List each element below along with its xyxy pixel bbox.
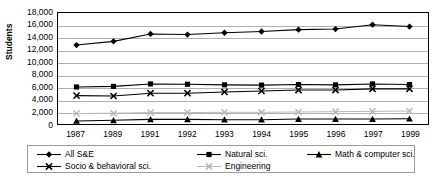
x-tick-label: 1995 bbox=[289, 129, 308, 139]
data-point bbox=[111, 84, 116, 89]
data-point bbox=[370, 81, 375, 86]
y-tick-label: 6,000 bbox=[32, 83, 53, 92]
legend-marker-square-icon bbox=[196, 149, 222, 160]
chart-legend: All S&ENatural sci.Math & computer sci.S… bbox=[27, 145, 415, 173]
legend-marker-cross-icon bbox=[196, 161, 222, 172]
legend-item[interactable]: Engineering bbox=[196, 160, 270, 172]
data-point bbox=[258, 28, 264, 34]
x-tick-label: 1992 bbox=[178, 129, 197, 139]
series-layer bbox=[58, 13, 428, 124]
series-math-computer-sci bbox=[73, 115, 413, 123]
y-tick-label: 0 bbox=[48, 121, 53, 130]
x-tick-label: 1996 bbox=[327, 129, 346, 139]
data-point bbox=[296, 82, 301, 87]
series-line bbox=[77, 111, 410, 113]
data-point bbox=[295, 27, 301, 33]
series-natural-sci bbox=[74, 81, 412, 89]
x-tick-label: 1991 bbox=[141, 129, 160, 139]
y-tick-label: 16,000 bbox=[27, 20, 53, 29]
data-point bbox=[185, 82, 190, 87]
y-tick-label: 14,000 bbox=[27, 33, 53, 42]
plot-area bbox=[57, 12, 429, 125]
data-point bbox=[221, 30, 227, 36]
data-point bbox=[110, 38, 116, 44]
data-point bbox=[148, 81, 153, 86]
data-point bbox=[259, 83, 264, 88]
y-axis-tick-labels: 18,00016,00014,00012,00010,0008,0006,000… bbox=[14, 8, 55, 128]
y-tick-label: 4,000 bbox=[32, 95, 53, 104]
x-tick-label: 1987 bbox=[66, 129, 85, 139]
y-tick-label: 12,000 bbox=[27, 45, 53, 54]
x-axis-tick-labels: 1987198919911992199319941995199619971999 bbox=[57, 129, 429, 142]
data-point bbox=[74, 84, 79, 89]
x-tick-label: 1994 bbox=[252, 129, 271, 139]
legend-label: Socio & behavioral sci. bbox=[65, 161, 151, 172]
y-tick-label: 2,000 bbox=[32, 108, 53, 117]
legend-label: All S&E bbox=[65, 149, 94, 160]
legend-label: Engineering bbox=[225, 161, 270, 172]
series-line bbox=[77, 84, 410, 87]
data-point bbox=[147, 31, 153, 37]
x-tick-label: 1999 bbox=[401, 129, 420, 139]
data-point bbox=[222, 82, 227, 87]
series-engineering bbox=[73, 108, 412, 117]
x-tick-label: 1989 bbox=[103, 129, 122, 139]
x-tick-label: 1993 bbox=[215, 129, 234, 139]
x-tick-label: 1997 bbox=[364, 129, 383, 139]
legend-marker-cross-icon bbox=[36, 161, 62, 172]
y-tick-label: 8,000 bbox=[32, 70, 53, 79]
series-all-s-e bbox=[73, 22, 412, 49]
legend-label: Natural sci. bbox=[225, 149, 268, 160]
legend-marker-diamond-icon bbox=[36, 149, 62, 160]
y-tick-label: 18,000 bbox=[27, 8, 53, 17]
y-axis-title: Students bbox=[4, 46, 14, 60]
series-line bbox=[77, 25, 410, 45]
series-socio-behavioral-sci bbox=[73, 86, 412, 99]
legend-label: Math & computer sci. bbox=[335, 149, 415, 160]
data-point bbox=[73, 42, 79, 48]
series-line bbox=[77, 89, 410, 96]
legend-item[interactable]: Natural sci. bbox=[196, 148, 268, 160]
legend-item[interactable]: Socio & behavioral sci. bbox=[36, 160, 151, 172]
y-tick-label: 10,000 bbox=[27, 58, 53, 67]
data-point bbox=[333, 82, 338, 87]
data-point bbox=[406, 23, 412, 29]
data-point bbox=[332, 26, 338, 32]
legend-item[interactable]: Math & computer sci. bbox=[306, 148, 415, 160]
series-line bbox=[77, 119, 410, 121]
data-point bbox=[369, 22, 375, 28]
legend-item[interactable]: All S&E bbox=[36, 148, 94, 160]
data-point bbox=[184, 31, 190, 37]
students-line-chart: Students 18,00016,00014,00012,00010,0008… bbox=[0, 0, 433, 177]
legend-marker-triangle-icon bbox=[306, 149, 332, 160]
